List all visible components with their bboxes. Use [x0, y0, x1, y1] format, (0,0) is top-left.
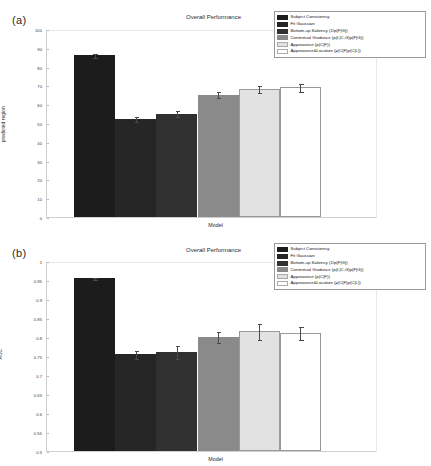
error-bar	[95, 278, 96, 281]
legend-item: Appearance&Location (p(C|F)p(C|L))	[277, 280, 423, 286]
y-axis-tick-label: 0.55	[34, 431, 42, 436]
legend-swatch	[277, 254, 288, 259]
y-axis-tick-mark	[47, 281, 49, 282]
panel-tag: (b)	[12, 247, 26, 259]
y-axis-label: AUC	[0, 304, 3, 404]
legend-swatch	[277, 267, 288, 272]
y-axis-tick-mark	[47, 433, 49, 434]
error-bar	[218, 332, 219, 344]
y-axis-tick-label: 1	[40, 260, 42, 265]
y-axis-tick-label: 0.5	[36, 450, 42, 455]
y-axis-tick-mark	[47, 319, 49, 320]
y-axis-tick-label: 0.95	[34, 279, 42, 284]
chart-title: Overall Performance	[186, 247, 241, 253]
legend-swatch	[277, 261, 288, 266]
y-axis-tick-mark	[47, 262, 49, 263]
y-axis-tick-label: 0.6	[36, 412, 42, 417]
bar	[115, 354, 156, 451]
bar	[239, 331, 280, 451]
error-bar	[177, 346, 178, 360]
bar	[280, 333, 321, 451]
legend-label: Fit Gaussian	[291, 254, 315, 258]
legend-item: Contextual Guidance (p(L|C,G)p(F|G))	[277, 267, 423, 273]
y-axis-tick-mark	[47, 300, 49, 301]
y-axis-tick-label: 0.65	[34, 393, 42, 398]
y-axis-label-line1: AUC	[0, 304, 3, 404]
y-axis-tick-label: 0.8	[36, 336, 42, 341]
y-axis-tick-label: 0.9	[36, 298, 42, 303]
chart-panel-b: (b)Overall Performance0.50.550.60.650.70…	[0, 0, 431, 466]
bar	[74, 278, 115, 451]
legend-swatch	[277, 247, 288, 252]
y-axis-tick-mark	[47, 357, 49, 358]
legend-item: Subject Consistency	[277, 246, 423, 252]
legend-swatch	[277, 281, 288, 286]
legend-item: Bottom-up Saliency (1/p(F|G))	[277, 260, 423, 266]
error-bar	[300, 327, 301, 341]
legend-item: Fit Gaussian	[277, 253, 423, 259]
plot-area: 0.50.550.60.650.70.750.80.850.90.951	[46, 262, 376, 452]
legend-swatch	[277, 274, 288, 279]
legend-label: Appearance&Location (p(C|F)p(C|L))	[291, 281, 361, 285]
bar	[198, 337, 239, 451]
y-axis-tick-mark	[47, 395, 49, 396]
legend-label: Appearance (p(C|F))	[291, 275, 330, 279]
bar	[156, 352, 197, 451]
y-axis-tick-mark	[47, 452, 49, 453]
error-bar	[259, 324, 260, 341]
y-axis-tick-mark	[47, 376, 49, 377]
y-axis-tick-label: 0.7	[36, 374, 42, 379]
y-axis-tick-mark	[47, 338, 49, 339]
legend-item: Appearance (p(C|F))	[277, 274, 423, 280]
y-axis-tick-label: 0.75	[34, 355, 42, 360]
legend-label: Contextual Guidance (p(L|C,G)p(F|G))	[291, 268, 364, 272]
legend-label: Subject Consistency	[291, 247, 330, 251]
error-bar	[136, 351, 137, 360]
y-axis-tick-mark	[47, 414, 49, 415]
chart-legend: Subject ConsistencyFit GaussianBottom-up…	[274, 243, 426, 290]
y-axis-tick-label: 0.85	[34, 317, 42, 322]
x-axis-label: Model	[0, 456, 431, 462]
legend-label: Bottom-up Saliency (1/p(F|G))	[291, 261, 348, 265]
